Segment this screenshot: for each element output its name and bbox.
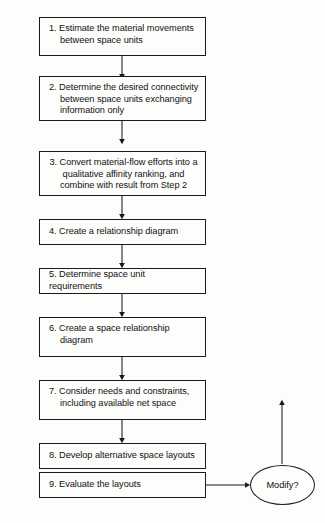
flowchart-node-step2-label: 2. Determine the desired connectivity be… bbox=[49, 82, 199, 117]
flowchart-node-step6-label: 6. Create a space relationship diagram bbox=[49, 323, 199, 346]
flowchart-node-step7-label: 7. Consider needs and constraints, inclu… bbox=[49, 386, 199, 409]
flowchart-node-step9-label: 9. Evaluate the layouts bbox=[49, 479, 141, 491]
flowchart-node-decision[interactable]: Modify? bbox=[250, 465, 315, 505]
flowchart-node-step4[interactable]: 4. Create a relationship diagram bbox=[39, 219, 206, 245]
flowchart-node-step2[interactable]: 2. Determine the desired connectivity be… bbox=[39, 76, 206, 121]
flowchart-node-step1[interactable]: 1. Estimate the material movements betwe… bbox=[39, 17, 206, 56]
flowchart-node-step8-label: 8. Develop alternative space layouts bbox=[49, 450, 195, 462]
flowchart-node-step4-label: 4. Create a relationship diagram bbox=[49, 226, 178, 238]
flowchart-node-step7[interactable]: 7. Consider needs and constraints, inclu… bbox=[39, 380, 206, 420]
flowchart-node-step9[interactable]: 9. Evaluate the layouts bbox=[39, 472, 206, 498]
flowchart-node-step3-label: 3. Convert material-flow efforts into a … bbox=[49, 157, 198, 192]
flowchart-node-step5-label: 5. Determine space unit requirements bbox=[49, 269, 199, 292]
flowchart-node-step3[interactable]: 3. Convert material-flow efforts into a … bbox=[39, 151, 206, 196]
flowchart-node-decision-label: Modify? bbox=[266, 480, 298, 490]
flowchart-node-step8[interactable]: 8. Develop alternative space layouts bbox=[39, 443, 206, 469]
flowchart-diagram: 1. Estimate the material movements betwe… bbox=[0, 0, 325, 523]
flowchart-node-step5[interactable]: 5. Determine space unit requirements bbox=[39, 268, 206, 294]
flowchart-node-step1-label: 1. Estimate the material movements betwe… bbox=[49, 23, 199, 46]
flowchart-node-step6[interactable]: 6. Create a space relationship diagram bbox=[39, 317, 206, 357]
